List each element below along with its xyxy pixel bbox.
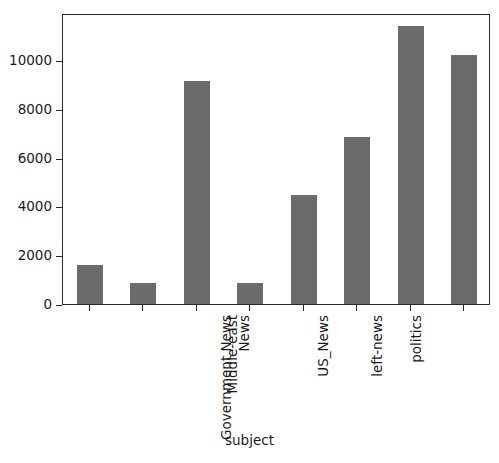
bar xyxy=(130,283,156,304)
y-axis-tick xyxy=(56,207,62,208)
x-axis-tick xyxy=(196,305,197,311)
x-axis-title: subject xyxy=(0,434,499,448)
bar xyxy=(398,26,424,304)
y-axis-tick xyxy=(56,61,62,62)
bar xyxy=(344,137,370,304)
plot-area xyxy=(62,14,490,305)
y-axis-tick xyxy=(56,159,62,160)
x-axis-tick-label: left-news xyxy=(370,315,384,377)
bars-layer xyxy=(63,15,489,304)
y-axis-tick xyxy=(56,305,62,306)
bar xyxy=(291,195,317,304)
bar xyxy=(77,265,103,304)
x-axis-tick-label: News xyxy=(238,315,252,351)
y-axis-tick xyxy=(56,110,62,111)
y-axis-tick xyxy=(56,256,62,257)
x-axis-tick-label: politics xyxy=(410,315,424,363)
x-axis-tick xyxy=(303,305,304,311)
x-axis-tick xyxy=(410,305,411,311)
y-axis-tick-label: 2000 xyxy=(0,249,52,263)
y-axis-tick-label: 6000 xyxy=(0,152,52,166)
bar xyxy=(451,55,477,304)
y-axis-tick-label: 0 xyxy=(0,298,52,312)
x-axis-tick xyxy=(142,305,143,311)
x-axis-tick xyxy=(249,305,250,311)
y-axis-tick-label: 10000 xyxy=(0,54,52,68)
x-axis-tick xyxy=(356,305,357,311)
bar xyxy=(184,81,210,304)
x-axis-tick xyxy=(463,305,464,311)
bar xyxy=(237,283,263,304)
x-axis-tick xyxy=(89,305,90,311)
y-axis-tick-label: 8000 xyxy=(0,103,52,117)
x-axis-tick-label: US_News xyxy=(317,315,331,377)
bar-chart-figure: 0200040006000800010000 subject Governmen… xyxy=(0,0,499,463)
y-axis-tick-label: 4000 xyxy=(0,200,52,214)
y-axis-labels: 0200040006000800010000 xyxy=(0,0,52,463)
